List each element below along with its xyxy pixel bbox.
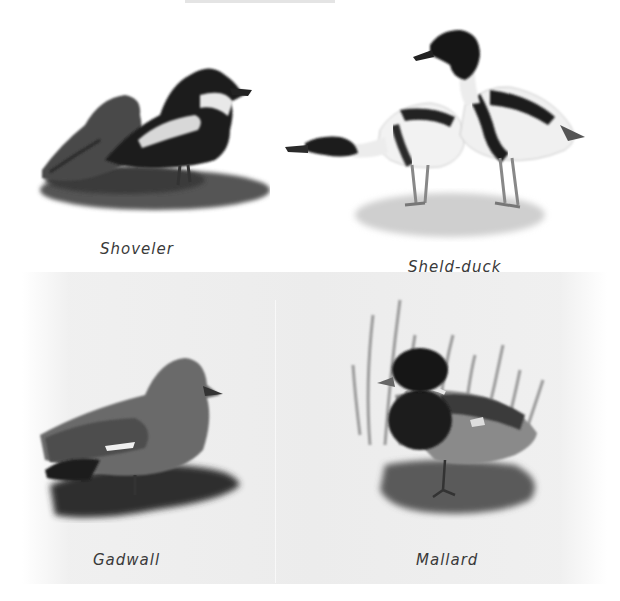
painting-mallard <box>345 295 555 520</box>
painting-gadwall <box>35 350 250 530</box>
painting-shelduck <box>280 25 590 250</box>
caption-shelduck: Sheld-duck <box>408 258 501 276</box>
caption-gadwall: Gadwall <box>93 551 160 569</box>
cut-off-header-text <box>185 0 335 3</box>
caption-mallard: Mallard <box>416 551 478 569</box>
caption-shoveler: Shoveler <box>100 240 174 258</box>
duck-illustration-plate: Shoveler <box>0 0 620 601</box>
panel-divider <box>275 300 276 583</box>
painting-shoveler <box>30 50 270 220</box>
